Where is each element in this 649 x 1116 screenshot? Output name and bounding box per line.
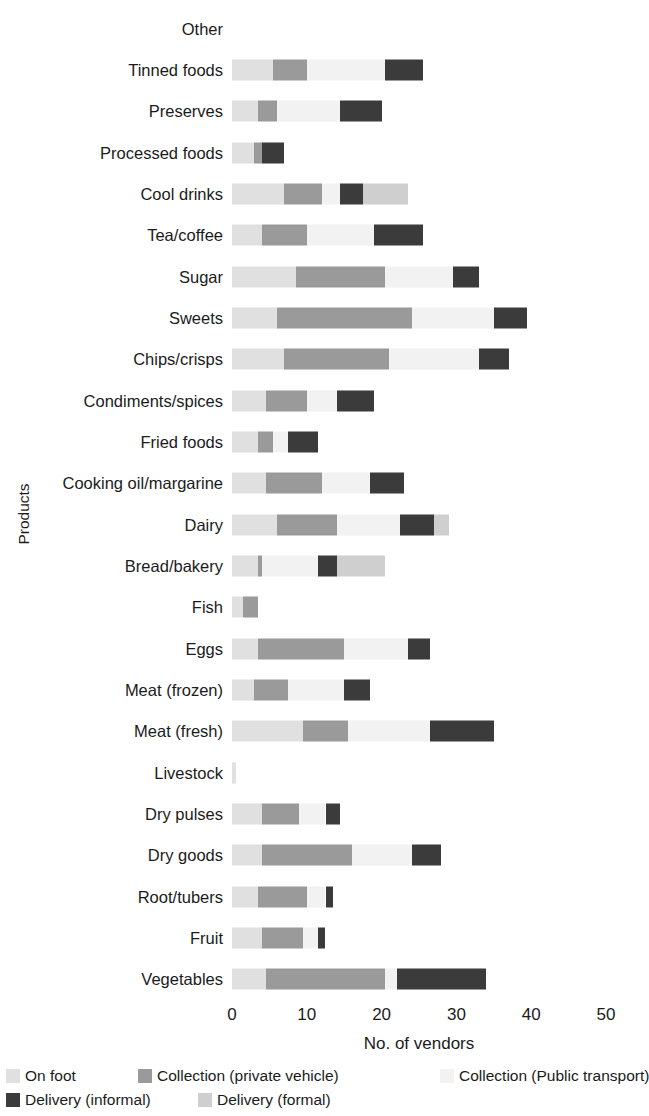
bar-segment (307, 59, 386, 80)
x-axis-tick-label: 20 (372, 1005, 391, 1025)
legend-item[interactable]: Delivery (formal) (198, 1088, 331, 1112)
bar-segment (258, 638, 344, 659)
bar-segment (258, 431, 273, 452)
bar-segment (337, 514, 401, 535)
bar-segment (232, 473, 266, 494)
bar-segment (232, 597, 243, 618)
bar-segment (266, 473, 322, 494)
chart-row: Eggs (232, 628, 606, 669)
y-axis-tick-label: Dairy (184, 516, 223, 533)
stacked-bar (232, 473, 404, 494)
stacked-bar (232, 183, 408, 204)
bar-segment (400, 514, 434, 535)
legend-item[interactable]: Collection (private vehicle) (138, 1064, 339, 1088)
bar-segment (262, 555, 318, 576)
legend-item[interactable]: Delivery (informal) (6, 1088, 151, 1112)
bar-segment (340, 183, 362, 204)
bar-segment (232, 431, 258, 452)
bar-segment (453, 266, 479, 287)
chart-row: Cooking oil/margarine (232, 463, 606, 504)
legend-label: Collection (Public transport) (459, 1068, 649, 1084)
y-axis-tick-label: Processed foods (100, 144, 223, 161)
bar-segment (232, 762, 236, 783)
bar-segment (307, 390, 337, 411)
bar-segment (385, 969, 396, 990)
bar-segment (232, 183, 284, 204)
y-axis-tick-label: Preserves (149, 103, 223, 120)
bar-segment (326, 886, 333, 907)
stacked-bar (232, 927, 326, 948)
bar-segment (412, 307, 494, 328)
stacked-bar (232, 803, 340, 824)
y-axis-tick-label: Meat (fresh) (134, 723, 223, 740)
plot-area: OtherTinned foodsPreservesProcessed food… (232, 8, 606, 1000)
y-axis-tick-label: Meat (frozen) (125, 682, 223, 699)
y-axis-tick-label: Tinned foods (128, 62, 223, 79)
bar-segment (288, 679, 344, 700)
bar-segment (232, 845, 262, 866)
legend-label: Collection (private vehicle) (157, 1068, 339, 1084)
stacked-bar (232, 638, 430, 659)
y-axis-tick-label: Dry pulses (145, 806, 223, 823)
bar-segment (318, 555, 337, 576)
bar-segment (434, 514, 449, 535)
bar-segment (318, 927, 325, 948)
y-axis-tick-label: Eggs (185, 640, 223, 657)
bar-segment (232, 59, 273, 80)
bar-segment (385, 59, 422, 80)
bar-segment (370, 473, 404, 494)
legend-label: Delivery (informal) (25, 1092, 151, 1108)
bar-segment (232, 225, 262, 246)
y-axis-tick-label: Condiments/spices (84, 392, 223, 409)
bar-segment (232, 307, 277, 328)
chart-row: Fish (232, 587, 606, 628)
bar-segment (284, 183, 321, 204)
y-axis-tick-label: Chips/crisps (133, 351, 223, 368)
bar-segment (232, 803, 262, 824)
bar-segment (232, 266, 296, 287)
legend-swatch-icon (6, 1093, 20, 1107)
bar-segment (232, 927, 262, 948)
bar-segment (277, 307, 412, 328)
stacked-bar (232, 349, 509, 370)
stacked-bar (232, 597, 258, 618)
bar-segment (284, 349, 389, 370)
bar-segment (232, 101, 258, 122)
chart-row: Vegetables (232, 959, 606, 1000)
legend-item[interactable]: On foot (6, 1064, 76, 1088)
chart-row: Bread/bakery (232, 545, 606, 586)
chart-row: Dry pulses (232, 793, 606, 834)
chart-row: Condiments/spices (232, 380, 606, 421)
bar-segment (340, 101, 381, 122)
chart-row: Sweets (232, 297, 606, 338)
bar-segment (232, 142, 254, 163)
chart-row: Sugar (232, 256, 606, 297)
stacked-bar (232, 431, 318, 452)
legend-item[interactable]: Collection (Public transport) (440, 1064, 649, 1088)
stacked-bar (232, 762, 236, 783)
legend-swatch-icon (6, 1069, 20, 1083)
chart-legend: On footCollection (private vehicle)Colle… (6, 1064, 626, 1112)
bar-segment (307, 886, 326, 907)
y-axis-title: Products (15, 454, 33, 574)
bar-segment (299, 803, 325, 824)
legend-label: Delivery (formal) (217, 1092, 331, 1108)
legend-row: On footCollection (private vehicle)Colle… (6, 1064, 626, 1088)
bar-segment (363, 183, 408, 204)
chart-row: Tinned foods (232, 49, 606, 90)
bar-segment (258, 101, 277, 122)
chart-row: Chips/crisps (232, 339, 606, 380)
bar-segment (348, 721, 430, 742)
y-axis-tick-label: Livestock (154, 764, 223, 781)
chart-row: Other (232, 8, 606, 49)
legend-row: Delivery (informal)Delivery (formal) (6, 1088, 626, 1112)
bar-segment (266, 390, 307, 411)
bar-segment (273, 59, 307, 80)
bar-segment (232, 349, 284, 370)
bar-segment (232, 969, 266, 990)
x-axis-tick-label: 10 (297, 1005, 316, 1025)
legend-swatch-icon (198, 1093, 212, 1107)
x-axis-title: No. of vendors (232, 1034, 606, 1054)
legend-swatch-icon (440, 1069, 454, 1083)
y-axis-tick-label: Tea/coffee (147, 227, 223, 244)
